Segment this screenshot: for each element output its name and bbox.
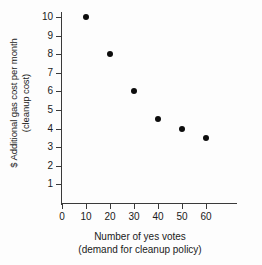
y-tick-label-5: 5: [13, 105, 53, 115]
x-tick-50: [182, 203, 183, 209]
x-axis-label: Number of yes votes (demand for cleanup …: [30, 230, 250, 256]
data-point: [155, 116, 161, 122]
y-tick-4: [56, 129, 62, 130]
y-tick-label-7: 7: [13, 68, 53, 78]
y-tick-10: [56, 17, 62, 18]
y-tick-7: [56, 73, 62, 74]
x-tick-0: [62, 203, 63, 209]
x-axis-label-line1: Number of yes votes: [94, 231, 186, 242]
x-tick-30: [134, 203, 135, 209]
y-tick-label-8: 8: [13, 49, 53, 59]
y-tick-label-3: 3: [13, 142, 53, 152]
data-point: [179, 126, 185, 132]
x-axis-label-line2: (demand for cleanup policy): [30, 243, 250, 256]
y-tick-label-4: 4: [13, 124, 53, 134]
y-tick-1: [56, 184, 62, 185]
x-tick-label-60: 60: [191, 211, 221, 222]
y-tick-8: [56, 54, 62, 55]
data-point: [131, 88, 137, 94]
y-tick-3: [56, 147, 62, 148]
y-tick-label-1: 1: [13, 179, 53, 189]
data-point: [83, 14, 89, 20]
data-point: [203, 135, 209, 141]
y-tick-5: [56, 110, 62, 111]
y-tick-label-2: 2: [13, 161, 53, 171]
x-tick-10: [86, 203, 87, 209]
scatter-plot-figure: $ Additional gas cost per month (cleanup…: [0, 0, 262, 265]
y-tick-9: [56, 36, 62, 37]
y-tick-label-10: 10: [13, 12, 53, 22]
y-tick-6: [56, 91, 62, 92]
y-axis-line: [61, 12, 62, 205]
y-tick-2: [56, 166, 62, 167]
x-axis-line: [61, 203, 237, 204]
y-tick-label-6: 6: [13, 86, 53, 96]
x-tick-20: [110, 203, 111, 209]
x-tick-60: [206, 203, 207, 209]
y-tick-label-9: 9: [13, 31, 53, 41]
data-point: [107, 51, 113, 57]
x-tick-40: [158, 203, 159, 209]
